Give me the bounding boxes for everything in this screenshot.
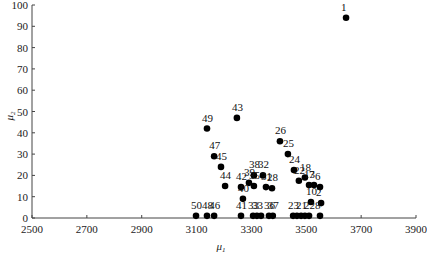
point-label: 1 [341, 1, 347, 13]
point-label: 28 [267, 171, 279, 183]
x-tick-label: 2900 [131, 223, 154, 235]
x-tick-label: 2500 [21, 223, 44, 235]
point-label: 40 [238, 182, 250, 194]
y-tick-label: 80 [17, 42, 29, 54]
data-point [269, 185, 276, 192]
y-tick-label: 100 [12, 0, 29, 11]
data-point [204, 125, 211, 132]
point-label: 33 [252, 199, 264, 211]
y-tick-label: 40 [17, 127, 29, 139]
data-point [234, 115, 241, 122]
point-label: 35 [249, 169, 261, 181]
point-label: 50 [191, 199, 203, 211]
x-tick-label: 3700 [350, 223, 373, 235]
point-label: 42 [236, 170, 247, 182]
x-tick-label: 3300 [240, 223, 263, 235]
x-tick-label: 3100 [186, 223, 209, 235]
point-label: 37 [268, 199, 280, 211]
point-label: 25 [283, 137, 295, 149]
data-point [204, 213, 211, 220]
y-tick-label: 50 [17, 106, 29, 118]
data-point [270, 213, 277, 220]
y-tick-label: 10 [17, 191, 29, 203]
y-tick-label: 30 [17, 148, 29, 160]
point-label: 45 [216, 150, 228, 162]
data-point [222, 183, 229, 190]
y-tick-label: 90 [17, 20, 29, 32]
y-tick-label: 0 [23, 212, 29, 224]
x-tick-label: 2700 [76, 223, 99, 235]
point-label: 41 [236, 199, 247, 211]
point-label: 8 [315, 199, 321, 211]
data-point [251, 183, 258, 190]
y-axis-title: μ2 [3, 111, 17, 122]
data-point [211, 213, 218, 220]
point-label: 49 [202, 112, 214, 124]
x-axis-title: μ1 [215, 240, 225, 254]
scatter-chart: 2500270029003100330035003700390001020304… [0, 0, 427, 255]
y-tick-label: 60 [17, 84, 29, 96]
point-label: 2 [316, 186, 322, 198]
point-label: 43 [232, 101, 244, 113]
point-label: 46 [209, 199, 221, 211]
point-label: 22 [304, 199, 315, 211]
data-point [296, 177, 303, 184]
point-label: 44 [220, 169, 232, 181]
data-point [193, 213, 200, 220]
y-tick-label: 70 [17, 63, 29, 75]
point-label: 6 [315, 170, 321, 182]
point-label: 26 [275, 124, 287, 136]
data-point [317, 213, 324, 220]
plot-area: 2500270029003100330035003700390001020304… [0, 0, 427, 255]
y-tick-label: 20 [17, 169, 29, 181]
x-tick-label: 3500 [295, 223, 318, 235]
x-tick-label: 3900 [405, 223, 427, 235]
data-point [306, 213, 313, 220]
data-point [263, 184, 270, 191]
data-point [258, 213, 265, 220]
data-point [238, 213, 245, 220]
data-point [343, 14, 350, 21]
